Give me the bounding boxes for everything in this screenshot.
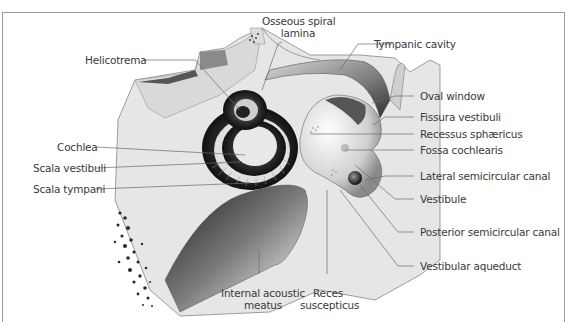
label-vestibular-aqueduct: Vestibular aqueduct (420, 260, 521, 272)
label-lateral-semicircular-canal: Lateral semicircular canal (420, 170, 550, 182)
label-fossa-cochlearis: Fossa cochlearis (420, 144, 503, 156)
label-reces-suscepticus: Reces suscepticus (300, 287, 356, 311)
label-helicotrema: Helicotrema (85, 54, 147, 66)
label-vestibule: Vestibule (420, 193, 466, 205)
label-scala-vestibuli: Scala vestibuli (33, 162, 106, 174)
label-internal-acoustic-meatus-line2: meatus (218, 299, 308, 311)
label-osseous-spiral-lamina-line1: Osseous spiral (262, 15, 334, 27)
label-fissura-vestibuli: Fissura vestibuli (420, 111, 501, 123)
label-reces-suscepticus-line2: suscepticus (300, 299, 356, 311)
label-scala-tympani: Scala tympani (33, 183, 105, 195)
label-oval-window: Oval window (420, 90, 485, 102)
label-osseous-spiral-lamina-line2: lamina (262, 27, 334, 39)
label-osseous-spiral-lamina: Osseous spiral lamina (262, 15, 334, 39)
label-tympanic-cavity: Tympanic cavity (374, 38, 456, 50)
label-internal-acoustic-meatus: Internal acoustic meatus (218, 287, 308, 311)
label-posterior-semicircular-canal: Posterior semicircular canal (420, 226, 560, 238)
label-internal-acoustic-meatus-line1: Internal acoustic (218, 287, 308, 299)
label-cochlea: Cochlea (57, 141, 98, 153)
label-reces-suscepticus-line1: Reces (300, 287, 356, 299)
label-recessus-sphaericus: Recessus sphæricus (420, 128, 523, 140)
